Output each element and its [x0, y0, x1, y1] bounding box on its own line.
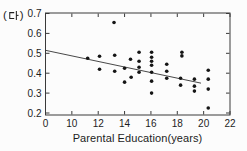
data-point: [137, 51, 141, 55]
plot-frame: [46, 13, 231, 115]
y-tick-label: 0.6: [28, 28, 42, 39]
data-point: [129, 57, 133, 61]
data-point: [150, 55, 154, 59]
x-tick-label: 16: [145, 118, 157, 129]
trend-line: [46, 50, 202, 83]
data-point: [137, 65, 141, 69]
data-point: [150, 59, 154, 63]
data-point: [113, 53, 117, 57]
x-tick-label: 10: [66, 118, 78, 129]
x-tick-label: 18: [172, 118, 184, 129]
data-point: [193, 89, 197, 93]
data-point: [129, 75, 133, 79]
data-point: [165, 76, 169, 80]
data-point: [165, 69, 169, 73]
data-point: [150, 51, 154, 55]
data-point: [206, 87, 210, 91]
data-point: [206, 68, 210, 72]
data-point: [112, 21, 116, 25]
data-point: [179, 83, 183, 87]
data-point: [150, 70, 154, 74]
x-tick-label: 14: [119, 118, 131, 129]
data-point: [98, 54, 102, 58]
data-point: [137, 59, 141, 63]
data-point: [113, 69, 117, 73]
x-axis-title: Parental Education(years): [45, 132, 230, 144]
y-tick-label: 0.5: [28, 48, 42, 59]
data-point: [193, 84, 197, 88]
y-tick-label: 0.3: [28, 88, 42, 99]
x-tick-label: 12: [93, 118, 105, 129]
data-point: [86, 56, 90, 60]
x-tick-label: 0: [43, 118, 49, 129]
data-point: [206, 106, 210, 110]
data-point: [206, 77, 210, 81]
data-point: [165, 62, 169, 66]
data-point: [123, 80, 127, 84]
data-point: [150, 63, 154, 67]
y-tick-label: 0.7: [28, 8, 42, 19]
x-tick-label: 22: [224, 118, 236, 129]
data-point: [193, 77, 197, 81]
data-point: [180, 51, 184, 55]
data-point: [98, 67, 102, 71]
x-tick-label: 20: [198, 118, 210, 129]
scatter-figure: ( ) 0101214161820220.20.30.40.50.60.7 Pa…: [0, 0, 247, 151]
y-tick-label: 0.4: [28, 68, 42, 79]
data-point: [179, 76, 183, 80]
data-point: [150, 91, 154, 95]
data-point: [150, 79, 154, 83]
data-point: [137, 70, 141, 74]
y-tick-label: 0.2: [28, 108, 42, 119]
scatter-chart: 0101214161820220.20.30.40.50.60.7: [0, 0, 247, 151]
data-point: [123, 66, 127, 70]
data-point: [180, 54, 184, 58]
